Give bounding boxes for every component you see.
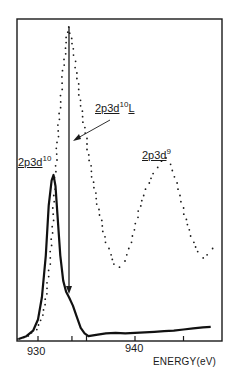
vertical-arrow xyxy=(66,27,72,294)
label-2p3d10L-suffix: L xyxy=(128,102,134,114)
label-2p3d9: 2p3d9 xyxy=(142,150,171,162)
label-2p3d9-base: 2p3d xyxy=(142,149,166,161)
x-axis-ticks xyxy=(38,336,184,341)
x-tick-label-940: 940 xyxy=(125,343,143,354)
label-2p3d10L-base: 2p3d xyxy=(95,102,119,114)
plot-frame xyxy=(17,19,222,341)
label-2p3d10-base: 2p3d xyxy=(18,156,42,168)
label-2p3d9-sup: 9 xyxy=(166,147,170,156)
spectrum-plot xyxy=(0,0,240,380)
x-tick-label-930: 930 xyxy=(27,346,45,357)
x-axis-title: ENERGY(eV) xyxy=(153,357,216,367)
label-2p3d10L-sup: 10 xyxy=(119,100,128,109)
label-2p3d10-sup: 10 xyxy=(42,154,51,163)
diagonal-arrow xyxy=(73,120,110,141)
dotted-spectrum-series xyxy=(17,26,214,340)
label-2p3d10L: 2p3d10L xyxy=(95,103,135,115)
solid-spectrum-series xyxy=(19,175,211,339)
label-2p3d10: 2p3d10 xyxy=(18,157,51,169)
